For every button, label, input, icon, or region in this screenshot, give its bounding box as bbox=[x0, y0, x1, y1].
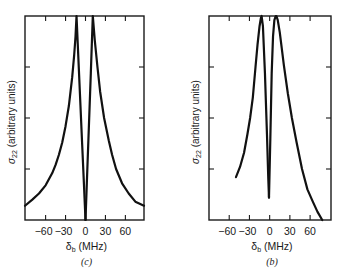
y-axis-label: σ22 (arbitrary units) bbox=[6, 80, 18, 164]
x-tick-label: 60 bbox=[304, 225, 316, 237]
x-axis-label: δb (MHz) bbox=[66, 240, 107, 253]
panel-label: (c) bbox=[81, 256, 93, 268]
x-tick-label: 30 bbox=[100, 225, 112, 237]
x-tick-labels: −60−3003060 bbox=[218, 225, 316, 237]
x-tick-label: 30 bbox=[284, 225, 296, 237]
series-line-right-branch bbox=[269, 16, 322, 220]
data-curves bbox=[236, 16, 322, 220]
x-tick-labels: −60−3003060 bbox=[35, 225, 132, 237]
x-tick-label: 0 bbox=[267, 225, 273, 237]
figure-canvas: −60−3003060 δb (MHz) σ22 (arbitrary unit… bbox=[0, 0, 341, 274]
x-tick-label: −30 bbox=[55, 225, 73, 237]
x-axis-label: δb (MHz) bbox=[251, 240, 292, 253]
panel-b: −60−3003060 δb (MHz) σ22 (arbitrary unit… bbox=[190, 16, 331, 268]
x-axis-label-unit: (MHz) bbox=[261, 240, 293, 252]
panel-label: (b) bbox=[266, 256, 278, 268]
x-tick-label: 60 bbox=[120, 225, 132, 237]
x-tick-label: 0 bbox=[83, 225, 89, 237]
y-axis-label-sub: 22 bbox=[11, 150, 18, 158]
series-line-right-branch bbox=[86, 16, 145, 220]
y-axis-label-sub: 22 bbox=[195, 150, 202, 158]
x-axis-label-unit: (MHz) bbox=[76, 240, 108, 252]
series-line-left-branch bbox=[236, 16, 269, 198]
y-axis-label-unit: (arbitrary units) bbox=[190, 80, 201, 150]
x-tick-label: −60 bbox=[218, 225, 236, 237]
panel-c: −60−3003060 δb (MHz) σ22 (arbitrary unit… bbox=[6, 16, 144, 268]
y-axis-label-unit: (arbitrary units) bbox=[6, 80, 17, 150]
data-curves bbox=[25, 16, 144, 220]
x-tick-label: −30 bbox=[239, 225, 257, 237]
y-axis-label: σ22 (arbitrary units) bbox=[190, 80, 202, 164]
series-line-left-branch bbox=[25, 16, 86, 220]
x-tick-label: −60 bbox=[35, 225, 53, 237]
